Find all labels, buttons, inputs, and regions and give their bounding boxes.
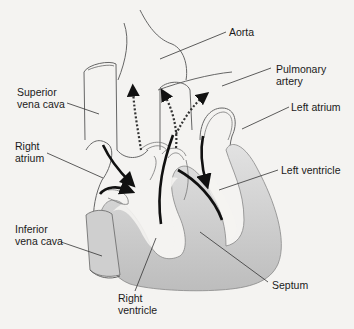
pulmonary-artery-shape — [158, 72, 232, 90]
flow-arrow-pulmonary-right — [176, 96, 204, 134]
label-aorta: Aorta — [229, 26, 254, 38]
heart-muscle-wall — [100, 145, 281, 291]
label-septum: Septum — [272, 279, 308, 291]
superior-vena-cava-shape — [84, 62, 148, 157]
flow-arrow-aorta — [133, 90, 141, 150]
label-right-atrium: Right atrium — [15, 140, 44, 164]
label-right-ventricle: Right ventricle — [118, 292, 157, 316]
flow-arrow-right-atrium — [103, 145, 130, 182]
flow-arrow-ivc — [100, 187, 128, 194]
flow-arrow-left-atrium — [202, 136, 206, 182]
aorta-shape — [118, 10, 187, 80]
label-inferior-vena-cava: Inferior vena cava — [15, 223, 63, 247]
heart-diagram: Aorta Pulmonary artery Superior vena cav… — [0, 0, 354, 329]
label-superior-vena-cava: Superior vena cava — [17, 86, 65, 110]
label-pulmonary-artery: Pulmonary artery — [276, 63, 326, 87]
label-left-atrium: Left atrium — [291, 101, 341, 113]
label-left-ventricle: Left ventricle — [281, 164, 341, 176]
